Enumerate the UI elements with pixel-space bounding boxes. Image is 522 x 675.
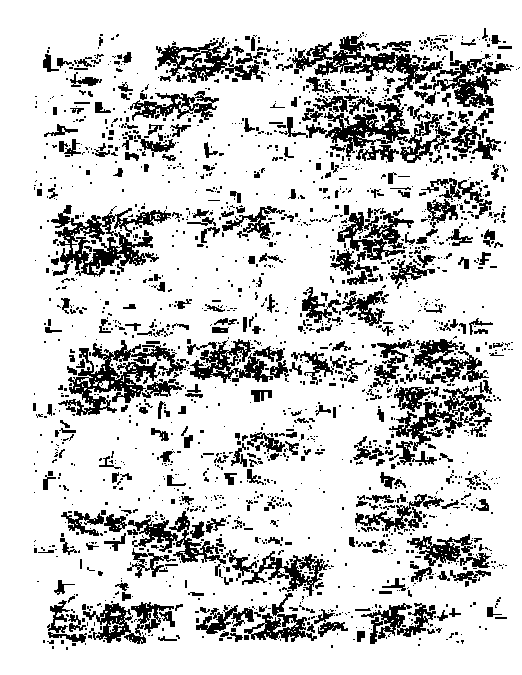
text-line — [32, 185, 474, 205]
text-line — [32, 295, 492, 315]
text-line — [32, 405, 478, 425]
text-line-overlay — [0, 0, 522, 675]
text-line — [32, 97, 492, 117]
text-line — [32, 603, 492, 623]
text-line — [32, 251, 492, 271]
text-line — [32, 493, 487, 513]
text-line — [32, 427, 492, 447]
text-line — [32, 559, 492, 579]
text-line — [32, 207, 492, 227]
text-line — [50, 581, 473, 601]
text-line — [32, 141, 478, 161]
text-line — [46, 449, 483, 469]
text-line — [32, 471, 492, 491]
text-line — [41, 515, 492, 535]
scanned-page — [0, 0, 522, 675]
text-line — [32, 537, 483, 557]
text-line — [41, 119, 492, 139]
text-line — [41, 317, 483, 337]
text-line — [32, 625, 469, 645]
text-line — [50, 163, 492, 183]
text-line — [96, 31, 487, 51]
text-line — [41, 53, 492, 73]
text-line — [41, 229, 487, 249]
text-line — [41, 383, 487, 403]
page-number — [452, 636, 466, 648]
text-line — [32, 339, 492, 359]
text-line — [32, 75, 483, 95]
text-line — [50, 273, 469, 293]
text-line — [32, 361, 492, 381]
